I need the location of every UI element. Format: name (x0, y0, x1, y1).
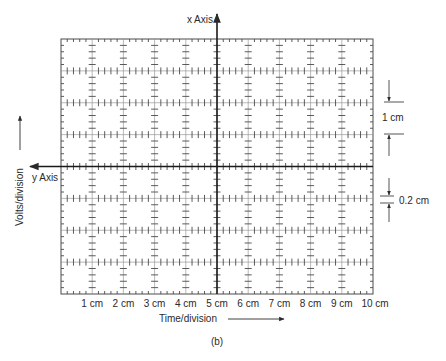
x-tick-label: 7 cm (269, 298, 291, 309)
minor-division-dimension: 0.2 cm (380, 178, 429, 222)
x-tick-label: 8 cm (300, 298, 322, 309)
x-tick-labels: 1 cm2 cm3 cm4 cm5 cm6 cm7 cm8 cm9 cm10 c… (81, 298, 388, 309)
figure-caption: (b) (211, 336, 223, 347)
x-axis-title: Time/division (159, 313, 217, 324)
minor-division-label: 0.2 cm (399, 195, 429, 206)
x-tick-label: 2 cm (113, 298, 135, 309)
y-axis-label: y Axis (32, 172, 58, 183)
major-division-dimension: 1 cm (382, 80, 404, 156)
oscilloscope-graticule-diagram: x Axis y Axis 1 cm2 cm3 cm4 cm5 cm6 cm7 … (0, 0, 446, 361)
x-tick-label: 3 cm (144, 298, 166, 309)
y-axis-title: Volts/division (14, 168, 25, 226)
x-tick-label: 1 cm (81, 298, 103, 309)
time-division-title: Time/division (159, 313, 284, 324)
major-division-label: 1 cm (382, 112, 404, 123)
central-axes: x Axis y Axis (30, 14, 373, 294)
x-tick-label: 6 cm (237, 298, 259, 309)
volts-division-title: Volts/division (14, 116, 25, 226)
x-tick-label: 5 cm (206, 298, 228, 309)
x-tick-label: 4 cm (175, 298, 197, 309)
x-tick-label: 9 cm (331, 298, 353, 309)
x-axis-label: x Axis (187, 14, 213, 25)
x-tick-label: 10 cm (361, 298, 388, 309)
